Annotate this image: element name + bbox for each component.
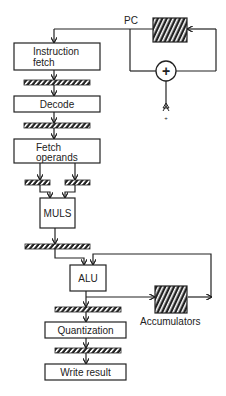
pc-register [153, 18, 187, 42]
pc-label: PC [124, 15, 138, 26]
pipeline-diagram: PC + + Instruction fetch Decode Fetch op… [0, 0, 226, 396]
operand-register-a [25, 180, 50, 185]
stage-muls-label: MULS [44, 208, 72, 219]
pipeline-register-5 [55, 348, 121, 353]
stage-quantization-label: Quantization [57, 325, 113, 336]
stage-instruction-fetch-label-1: Instruction [33, 46, 79, 57]
plus-icon: + [162, 63, 170, 79]
operand-register-b [65, 180, 90, 185]
pipeline-register-1 [24, 80, 90, 85]
accumulators-label: Accumulators [140, 316, 201, 327]
stage-fetch-operands-label-2: operands [36, 152, 78, 163]
bar-b-to-muls [65, 185, 75, 197]
pipeline-register-4 [55, 307, 121, 312]
stage-alu-label: ALU [78, 273, 97, 284]
stage-decode-label: Decode [40, 99, 75, 110]
pipeline-register-2 [24, 123, 90, 128]
acc-feedback-to-alu [93, 254, 211, 297]
increment-label: + [164, 115, 168, 121]
pipeline-register-3 [25, 244, 90, 249]
stage-instruction-fetch-label-2: fetch [33, 57, 55, 68]
stage-write-result-label: Write result [60, 367, 111, 378]
bar3-to-alu [55, 249, 84, 264]
accumulators-register [155, 286, 187, 313]
bar-a-to-muls [40, 185, 50, 197]
